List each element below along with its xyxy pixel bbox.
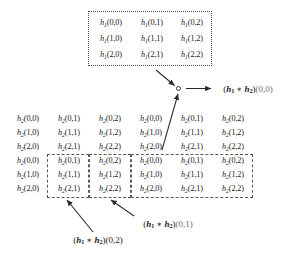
h2-cell-0-2: h2(0,2) [99, 114, 121, 123]
h2-cell-2-2: h2(2,2) [99, 142, 121, 151]
h2-cell-1-0: h2(1,0) [17, 128, 39, 137]
h2-cell-0-1: h2(0,1) [58, 114, 80, 123]
arrow-result-02-to-box [67, 200, 93, 232]
h2-cell-3-2: h2(0,2) [99, 156, 121, 165]
h2-cell-2-5: h2(2,2) [222, 142, 244, 151]
result-label-02: (h1 ∗ h2)(0,2) [73, 235, 123, 245]
h2-cell-3-1: h2(0,1) [58, 156, 80, 165]
result-label-00: (h1 ∗ h2)(0,0) [223, 84, 273, 94]
h2-cell-0-0: h2(0,0) [17, 114, 39, 123]
h2-cell-1-3: h2(1,0) [140, 128, 162, 137]
result-label-01: (h1 ∗ h2)(0,1) [143, 219, 193, 229]
summation-node [176, 86, 181, 91]
h2-cell-0-3: h2(0,0) [140, 114, 162, 123]
h2-cell-0-4: h2(0,1) [181, 114, 203, 123]
h2-cell-4-1: h2(1,1) [58, 170, 80, 179]
h2-cell-3-5: h2(0,2) [222, 156, 244, 165]
h2-cell-5-3: h2(2,0) [140, 184, 162, 193]
h2-cell-5-0: h2(2,0) [17, 184, 39, 193]
h2-cell-4-2: h2(1,2) [99, 170, 121, 179]
h2-cell-4-0: h2(1,0) [17, 170, 39, 179]
h1-cell-1-2: h1(1,2) [181, 34, 203, 43]
h2-cell-5-4: h2(2,1) [181, 184, 203, 193]
h1-cell-2-0: h1(2,0) [100, 50, 122, 59]
h2-cell-3-0: h2(0,0) [17, 156, 39, 165]
h1-cell-2-1: h1(2,1) [141, 50, 163, 59]
h1-cell-0-2: h1(0,2) [181, 18, 203, 27]
h2-cell-3-3: h2(0,0) [140, 156, 162, 165]
h1-cell-2-2: h1(2,2) [181, 50, 203, 59]
h2-cell-2-1: h2(2,1) [58, 142, 80, 151]
arrow-h1-to-node [156, 70, 175, 86]
h2-cell-4-3: h2(1,0) [140, 170, 162, 179]
h2-cell-5-5: h2(2,2) [222, 184, 244, 193]
h2-cell-4-4: h2(1,1) [181, 170, 203, 179]
h2-cell-2-0: h2(2,0) [17, 142, 39, 151]
h1-cell-1-1: h1(1,1) [141, 34, 163, 43]
h2-cell-2-3: h2(2,0) [140, 142, 162, 151]
h1-cell-0-0: h1(0,0) [100, 18, 122, 27]
h1-cell-0-1: h1(0,1) [141, 18, 163, 27]
h2-cell-1-5: h2(1,2) [222, 128, 244, 137]
h2-cell-1-4: h2(1,1) [181, 128, 203, 137]
convolution-figure: h1(0,0) h1(0,1) h1(0,2) h1(1,0) h1(1,1) … [0, 0, 291, 255]
h2-cell-5-1: h2(2,1) [58, 184, 80, 193]
arrow-h2-to-node [162, 94, 178, 150]
h2-cell-0-5: h2(0,2) [222, 114, 244, 123]
h2-cell-5-2: h2(2,2) [99, 184, 121, 193]
h1-cell-1-0: h1(1,0) [100, 34, 122, 43]
h2-cell-1-1: h2(1,1) [58, 128, 80, 137]
h2-cell-2-4: h2(2,1) [181, 142, 203, 151]
h2-cell-3-4: h2(0,1) [181, 156, 203, 165]
arrow-result-01-to-box [111, 200, 134, 216]
h2-cell-1-2: h2(1,2) [99, 128, 121, 137]
h2-cell-4-5: h2(1,2) [222, 170, 244, 179]
